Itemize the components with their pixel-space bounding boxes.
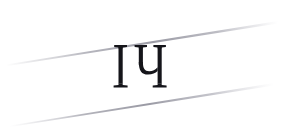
glyph-layer: ІЧ [0, 0, 284, 132]
glyph-strokes [114, 45, 167, 88]
glyph-container: ІЧ [110, 42, 180, 92]
glyph-letter-i [114, 45, 128, 88]
glyph-letter-che [135, 45, 167, 88]
artwork-canvas: ІЧ [0, 0, 284, 132]
glyph-svg [110, 42, 180, 92]
